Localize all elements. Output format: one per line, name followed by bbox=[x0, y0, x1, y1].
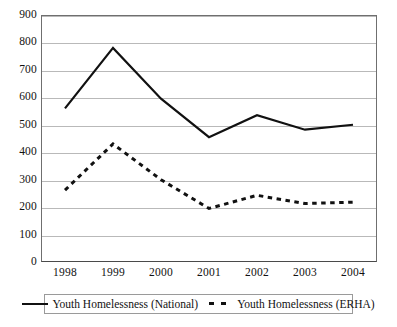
y-axis-tick-label: 700 bbox=[1, 64, 37, 76]
x-axis-tick-label: 1998 bbox=[53, 266, 77, 279]
y-axis-tick-label: 800 bbox=[1, 36, 37, 48]
gridline bbox=[42, 208, 376, 209]
x-axis-tick-label: 2002 bbox=[245, 266, 269, 279]
y-axis-tick-label: 0 bbox=[1, 256, 37, 268]
solid-line-swatch-icon bbox=[22, 303, 48, 305]
legend-item-2: Youth Homelessness (ERHA) bbox=[207, 298, 374, 310]
gridline bbox=[42, 16, 376, 17]
chart-legend: Youth Homelessness (National)Youth Homel… bbox=[44, 294, 353, 314]
y-axis: 9008007006005004003002001000 bbox=[0, 0, 37, 327]
y-axis-tick-label: 200 bbox=[1, 201, 37, 213]
line-chart: 9008007006005004003002001000 19981999200… bbox=[0, 0, 397, 327]
x-axis-tick-label: 2004 bbox=[341, 266, 365, 279]
x-axis-tick-label: 2001 bbox=[197, 266, 221, 279]
gridline bbox=[42, 43, 376, 44]
gridline bbox=[42, 98, 376, 99]
y-axis-tick-label: 300 bbox=[1, 174, 37, 186]
x-axis-tick-label: 2003 bbox=[293, 266, 317, 279]
gridline bbox=[42, 153, 376, 154]
y-axis-tick-label: 400 bbox=[1, 146, 37, 158]
y-axis-tick-label: 900 bbox=[1, 9, 37, 21]
legend-item-1: Youth Homelessness (National) bbox=[22, 298, 198, 310]
gridline bbox=[42, 181, 376, 182]
x-axis-tick-label: 2000 bbox=[149, 266, 173, 279]
legend-label: Youth Homelessness (National) bbox=[52, 298, 198, 310]
x-axis-tick-label: 1999 bbox=[101, 266, 125, 279]
plot-area bbox=[41, 15, 377, 262]
y-axis-tick-label: 100 bbox=[1, 229, 37, 241]
gridline bbox=[42, 126, 376, 127]
gridline bbox=[42, 236, 376, 237]
y-axis-tick-label: 600 bbox=[1, 91, 37, 103]
y-axis-tick-label: 500 bbox=[1, 119, 37, 131]
x-axis: 1998199920002001200220032004 bbox=[41, 266, 377, 282]
legend-label: Youth Homelessness (ERHA) bbox=[237, 298, 374, 310]
gridline bbox=[42, 71, 376, 72]
dotted-line-swatch-icon bbox=[207, 302, 233, 306]
